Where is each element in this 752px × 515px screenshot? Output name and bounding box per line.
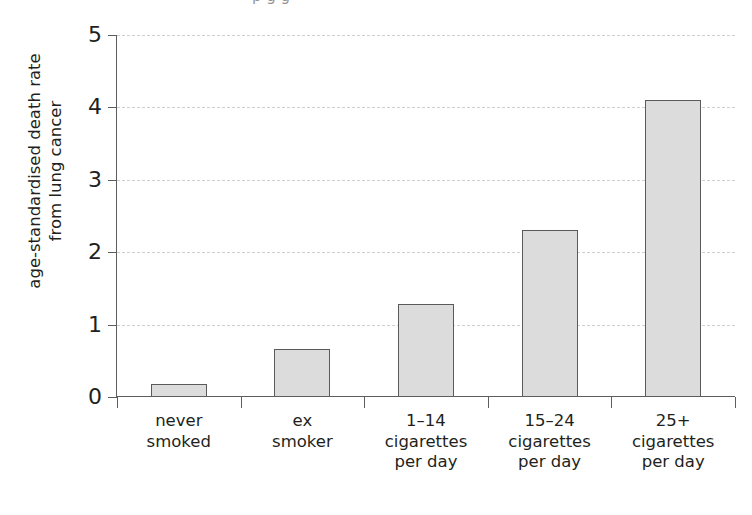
x-separator <box>611 397 612 408</box>
x-separator <box>735 397 736 408</box>
x-label-line: smoker <box>241 432 365 453</box>
bar <box>522 230 578 397</box>
bar <box>645 100 701 397</box>
x-label-line: cigarettes <box>364 432 488 453</box>
y-axis-title-line1: age-standardised death rate <box>25 53 44 288</box>
x-label-line: per day <box>488 452 612 473</box>
x-category-label: 1–14cigarettesper day <box>364 411 488 473</box>
x-separator <box>241 397 242 408</box>
bar-chart-figure: age-standardised death rate from lung ca… <box>0 0 752 515</box>
x-label-line: smoked <box>117 432 241 453</box>
y-tick-label-2: 2 <box>68 241 102 263</box>
x-label-line: cigarettes <box>611 432 735 453</box>
x-label-line: 15–24 <box>488 411 612 432</box>
x-label-line: ex <box>241 411 365 432</box>
x-label-line: never <box>117 411 241 432</box>
x-label-line: per day <box>611 452 735 473</box>
y-tick-label-5: 5 <box>68 24 102 46</box>
x-category-label: 25+cigarettesper day <box>611 411 735 473</box>
gridline-5 <box>117 35 735 36</box>
x-label-line: 25+ <box>611 411 735 432</box>
x-label-line: per day <box>364 452 488 473</box>
y-axis-tick-labels: 012345 <box>62 0 102 515</box>
x-label-line: cigarettes <box>488 432 612 453</box>
x-category-label: exsmoker <box>241 411 365 452</box>
x-axis-line <box>117 396 735 397</box>
x-separator <box>364 397 365 408</box>
y-tick-label-4: 4 <box>68 96 102 118</box>
x-category-label: 15–24cigarettesper day <box>488 411 612 473</box>
x-separator <box>488 397 489 408</box>
x-label-line: 1–14 <box>364 411 488 432</box>
y-axis-line <box>116 35 117 398</box>
x-separator <box>117 397 118 408</box>
gridline-4 <box>117 107 735 108</box>
y-tick-label-3: 3 <box>68 169 102 191</box>
y-tick-label-1: 1 <box>68 314 102 336</box>
x-category-label: neversmoked <box>117 411 241 452</box>
y-axis-title: age-standardised death rate from lung ca… <box>24 21 66 321</box>
y-tick-label-0: 0 <box>68 386 102 408</box>
bar <box>274 349 330 397</box>
gridline-3 <box>117 180 735 181</box>
bar <box>398 304 454 397</box>
gridline-2 <box>117 252 735 253</box>
plot-area <box>117 35 735 397</box>
